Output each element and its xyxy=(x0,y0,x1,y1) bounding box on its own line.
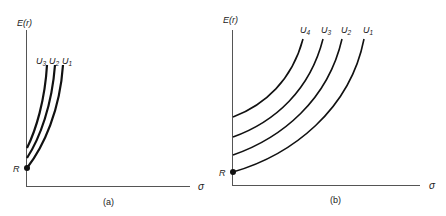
figure: E(r) σ R (a) U3 U2 U1 E(r) σ R (b) U4 U3… xyxy=(0,0,446,216)
legend-b: U4 U3 U2 U1 xyxy=(300,25,374,36)
x-axis-label-b: σ xyxy=(429,180,436,191)
legend-a: U3 U2 U1 xyxy=(36,56,73,67)
label-b-u2: U2 xyxy=(341,25,352,36)
curve-a-u3 xyxy=(27,65,47,148)
curve-b-u4 xyxy=(233,39,303,117)
point-label-b: R xyxy=(219,168,226,178)
label-a-u2: U2 xyxy=(49,56,60,67)
curve-b-u2 xyxy=(233,39,342,155)
label-b-u1: U1 xyxy=(363,25,374,36)
label-a-u3: U3 xyxy=(36,56,47,67)
label-b-u3: U3 xyxy=(321,25,332,36)
panel-b: E(r) σ R (b) U4 U3 U2 U1 xyxy=(219,15,436,205)
point-label-a: R xyxy=(13,164,20,174)
panel-a: E(r) σ R (a) U3 U2 U1 xyxy=(13,18,205,207)
label-b-u4: U4 xyxy=(300,25,311,36)
curve-b-u1 xyxy=(233,39,364,172)
y-axis-label-a: E(r) xyxy=(17,18,32,28)
y-axis-label-b: E(r) xyxy=(223,15,238,25)
caption-b: (b) xyxy=(330,195,341,205)
x-axis-label-a: σ xyxy=(198,181,205,192)
caption-a: (a) xyxy=(103,197,114,207)
curve-b-u3 xyxy=(233,39,323,137)
point-r-a xyxy=(24,165,30,171)
point-r-b xyxy=(230,169,236,175)
label-a-u1: U1 xyxy=(62,56,73,67)
